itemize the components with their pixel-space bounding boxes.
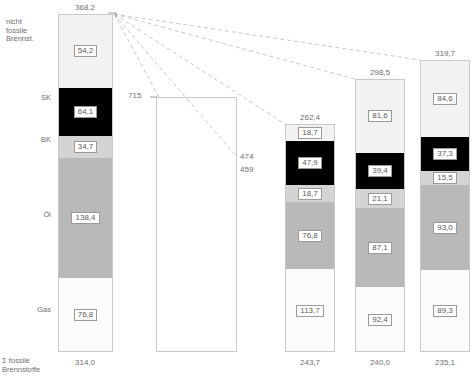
segment-value: 138,4 [71, 212, 99, 224]
segment-sk[interactable]: 37,3 [420, 137, 470, 171]
segment-value: 37,3 [433, 148, 457, 160]
segment-value: 54,2 [74, 45, 98, 57]
segment-value: 113,7 [296, 305, 323, 317]
bar1-total-top: 368,2 [56, 3, 114, 12]
segment-sk[interactable]: 64,1 [58, 88, 113, 136]
segment-bk[interactable]: 34,7 [58, 136, 113, 158]
connector-to-bar5 [114, 14, 420, 60]
row-label-bk: BK [6, 136, 51, 145]
row-label-nicht-fossile: nicht fossile Brennst. [6, 18, 51, 44]
bar-column-2[interactable] [156, 97, 237, 352]
bar3-total-top: 262,4 [283, 113, 337, 122]
segment-gas[interactable]: 89,3 [420, 270, 470, 352]
segment-value: 76,8 [298, 230, 322, 242]
segment-oel[interactable]: 87,1 [355, 208, 405, 287]
segment-value: 39,4 [368, 165, 392, 177]
bar5-total-top: 319,7 [418, 49, 472, 58]
segment-bk[interactable]: 15,5 [420, 171, 470, 185]
segment-sk[interactable]: 47,9 [285, 141, 335, 185]
row-label-oel: Öl [6, 211, 51, 220]
bar3-total-bottom: 243,7 [283, 358, 337, 367]
segment-gas[interactable]: 92,4 [355, 287, 405, 352]
segment-value: 87,1 [368, 242, 392, 254]
segment-nicht-fossile[interactable]: 18,7 [285, 124, 335, 141]
segment-value: 34,7 [74, 141, 98, 153]
bar2-total-top: 715 [128, 91, 141, 100]
segment-oel[interactable]: 76,8 [285, 202, 335, 269]
bar1-total-bottom: 314,0 [56, 358, 114, 367]
segment-nicht-fossile[interactable]: 84,6 [420, 60, 470, 137]
segment-bk[interactable]: 21,1 [355, 189, 405, 208]
connector-to-bar4 [114, 14, 355, 79]
segment-value: 81,6 [368, 110, 392, 122]
bar-column-3[interactable]: 18,7 47,9 18,7 76,8 113,7 [285, 124, 335, 352]
segment-value: 89,3 [433, 305, 457, 317]
row-label-gas: Gas [6, 306, 51, 315]
connector-to-bar2-left [114, 14, 160, 99]
bar-column-1[interactable]: 54,2 64,1 34,7 138,4 76,8 [58, 14, 113, 352]
segment-value: 18,7 [298, 127, 322, 139]
segment-value: 84,6 [433, 93, 457, 105]
segment-value: 76,8 [74, 309, 98, 321]
bar4-total-bottom: 240,0 [353, 358, 407, 367]
bar2-annotation-upper: 474 [240, 152, 253, 161]
row-label-sk: SK [6, 94, 51, 103]
bar4-total-top: 298,5 [353, 68, 407, 77]
segment-oel[interactable]: 93,0 [420, 185, 470, 270]
segment-bk[interactable]: 18,7 [285, 185, 335, 202]
segment-gas[interactable]: 76,8 [58, 278, 113, 352]
segment-nicht-fossile[interactable]: 81,6 [355, 79, 405, 153]
segment-value: 64,1 [74, 106, 98, 118]
segment-value: 18,7 [298, 188, 322, 200]
segment-nicht-fossile[interactable]: 54,2 [58, 14, 113, 88]
segment-value: 21,1 [368, 193, 392, 205]
segment-value: 47,9 [298, 157, 322, 169]
stacked-bar-chart: nicht fossile Brennst. SK BK Öl Gas Σ fo… [0, 0, 475, 383]
row-label-sum-fossile: Σ fossile Brennstoffe [2, 357, 54, 374]
bar-column-5[interactable]: 84,6 37,3 15,5 93,0 89,3 [420, 60, 470, 352]
segment-sk[interactable]: 39,4 [355, 153, 405, 189]
bar-column-4[interactable]: 81,6 39,4 21,1 87,1 92,4 [355, 79, 405, 352]
bar2-annotation-lower: 459 [240, 165, 253, 174]
segment-value: 15,5 [433, 172, 457, 184]
bar5-total-bottom: 235,1 [418, 358, 472, 367]
segment-oel[interactable]: 138,4 [58, 158, 113, 278]
segment-value: 92,4 [368, 314, 392, 326]
segment-gas[interactable]: 113,7 [285, 269, 335, 352]
segment-value: 93,0 [433, 222, 457, 234]
